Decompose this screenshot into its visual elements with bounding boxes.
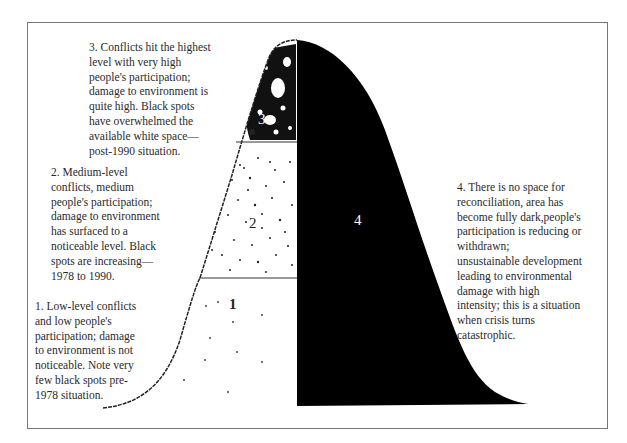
text-line: withdrawn; — [457, 239, 602, 254]
text-line: noticeable level. Black — [51, 239, 181, 254]
stage-3-description: 3. Conflicts hit the highest level with … — [89, 40, 239, 158]
text-line: conflicts, medium — [51, 180, 181, 195]
text-line: when crisis turns — [457, 313, 602, 328]
stage-2-description: 2. Medium-level conflicts, medium people… — [51, 165, 181, 283]
text-line: available white space— — [89, 129, 239, 144]
text-line: few black spots pre- — [35, 373, 153, 388]
text-line: have overwhelmed the — [89, 114, 239, 129]
text-line: spots are increasing— — [51, 254, 181, 269]
stage-1-description: 1. Low-level conflicts and low people's … — [35, 299, 153, 403]
text-line: 2. Medium-level — [51, 165, 181, 180]
text-line: has surfaced to a — [51, 224, 181, 239]
text-line: to environment is not — [35, 343, 153, 358]
text-line: unsustainable development — [457, 254, 602, 269]
text-line: catastrophic. — [457, 328, 602, 343]
text-line: people's participation; — [89, 70, 239, 85]
stage-1-sparse-dots — [183, 301, 263, 393]
text-line: 3. Conflicts hit the highest — [89, 40, 239, 55]
text-line: noticeable. Note very — [35, 358, 153, 373]
text-line: reconciliation, area has — [457, 195, 602, 210]
text-line: participation; damage — [35, 329, 153, 344]
text-line: leading to environmental — [457, 269, 602, 284]
stage-2-label: 2 — [249, 215, 257, 231]
text-line: participation is reducing or — [457, 224, 602, 239]
text-line: 1978 situation. — [35, 388, 153, 403]
text-line: people's participation; — [51, 195, 181, 210]
text-line: damage to environment is — [89, 84, 239, 99]
stage-4-description: 4. There is no space for reconciliation,… — [457, 180, 602, 343]
text-line: 1. Low-level conflicts — [35, 299, 153, 314]
text-line: level with very high — [89, 55, 239, 70]
text-line: and low people's — [35, 314, 153, 329]
text-line: intensity; this is a situation — [457, 298, 602, 313]
text-line: 4. There is no space for — [457, 180, 602, 195]
text-line: damage to environment — [51, 209, 181, 224]
text-line: damage with high — [457, 284, 602, 299]
text-line: become fully dark,people's — [457, 210, 602, 225]
stage-4-label: 4 — [354, 212, 362, 228]
stage-1-label: 1 — [229, 296, 237, 312]
text-line: quite high. Black spots — [89, 99, 239, 114]
text-line: post-1990 situation. — [89, 144, 239, 159]
text-line: 1978 to 1990. — [51, 269, 181, 284]
stage-3-label: 3 — [258, 111, 266, 127]
